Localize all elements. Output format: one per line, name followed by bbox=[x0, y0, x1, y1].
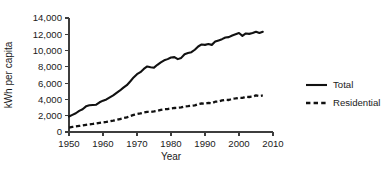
line-chart: 02,0004,0006,0008,00010,00012,00014,000 … bbox=[0, 0, 391, 182]
legend-label-residential: Residential bbox=[333, 97, 380, 108]
x-tick-label: 2000 bbox=[228, 138, 249, 149]
x-tick-label: 1950 bbox=[58, 138, 79, 149]
x-tick-label: 1960 bbox=[92, 138, 113, 149]
x-tick-label: 1990 bbox=[194, 138, 215, 149]
y-tick-label: 14,000 bbox=[33, 12, 62, 23]
x-tick-label: 1970 bbox=[126, 138, 147, 149]
chart-figure: 02,0004,0006,0008,00010,00012,00014,000 … bbox=[0, 0, 391, 182]
y-tick-label: 0 bbox=[57, 126, 62, 137]
y-tick-label: 2,000 bbox=[38, 110, 62, 121]
y-axis-ticks: 02,0004,0006,0008,00010,00012,00014,000 bbox=[33, 12, 69, 137]
y-tick-label: 10,000 bbox=[33, 45, 62, 56]
y-axis-title: kWh per capita bbox=[3, 41, 14, 108]
x-axis-title: Year bbox=[161, 151, 182, 162]
series-line-residential bbox=[69, 95, 263, 127]
y-tick-label: 4,000 bbox=[38, 94, 62, 105]
series-line-total bbox=[69, 32, 263, 117]
series-group bbox=[69, 32, 263, 128]
y-tick-label: 8,000 bbox=[38, 61, 62, 72]
y-tick-label: 12,000 bbox=[33, 29, 62, 40]
x-tick-label: 1980 bbox=[160, 138, 181, 149]
x-axis-ticks: 1950196019701980199020002010 bbox=[58, 132, 283, 149]
x-tick-label: 2010 bbox=[262, 138, 283, 149]
chart-legend: Total Residential bbox=[306, 79, 380, 108]
y-tick-label: 6,000 bbox=[38, 78, 62, 89]
legend-label-total: Total bbox=[333, 79, 353, 90]
